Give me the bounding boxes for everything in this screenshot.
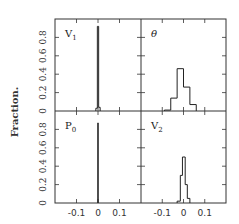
x-tick-label: 0 — [181, 208, 187, 218]
y-tick-label: 0.8 — [38, 122, 48, 137]
panel-label-V1: V1 — [64, 28, 77, 42]
x-tick-label: 0 — [95, 208, 101, 218]
panel-label-theta: θ — [151, 28, 157, 39]
y-tick-label: 0 — [38, 200, 48, 206]
x-tick-label: 0.1 — [198, 208, 212, 218]
y-tick-label: 0.6 — [38, 48, 48, 63]
histogram-V1 — [96, 26, 100, 111]
panel-theta: θ — [141, 19, 226, 111]
y-tick-label: 0 — [38, 108, 48, 114]
y-tick-label: 0.2 — [38, 177, 48, 191]
histogram-theta — [164, 69, 196, 111]
panel-label-P0: P0 — [65, 120, 76, 134]
x-tick-label: 0.1 — [112, 208, 126, 218]
y-tick-label: 0.8 — [38, 30, 48, 45]
panel-V2: V2 — [141, 111, 226, 203]
x-tick-label: -0.1 — [153, 208, 171, 218]
y-tick-label: 0.2 — [38, 85, 48, 99]
y-tick-label: 0.4 — [38, 159, 48, 174]
y-tick-label: 0.6 — [38, 140, 48, 155]
histogram-grid-chart: V1θP0V200.20.40.60.800.20.40.60.8-0.100.… — [0, 0, 239, 224]
panel-label-V2: V2 — [150, 120, 163, 134]
panel-V1: V1 — [55, 19, 141, 111]
panel-P0: P0 — [55, 111, 141, 203]
histogram-V2 — [177, 157, 190, 203]
x-tick-label: -0.1 — [68, 208, 86, 218]
y-tick-label: 0.4 — [38, 67, 48, 82]
